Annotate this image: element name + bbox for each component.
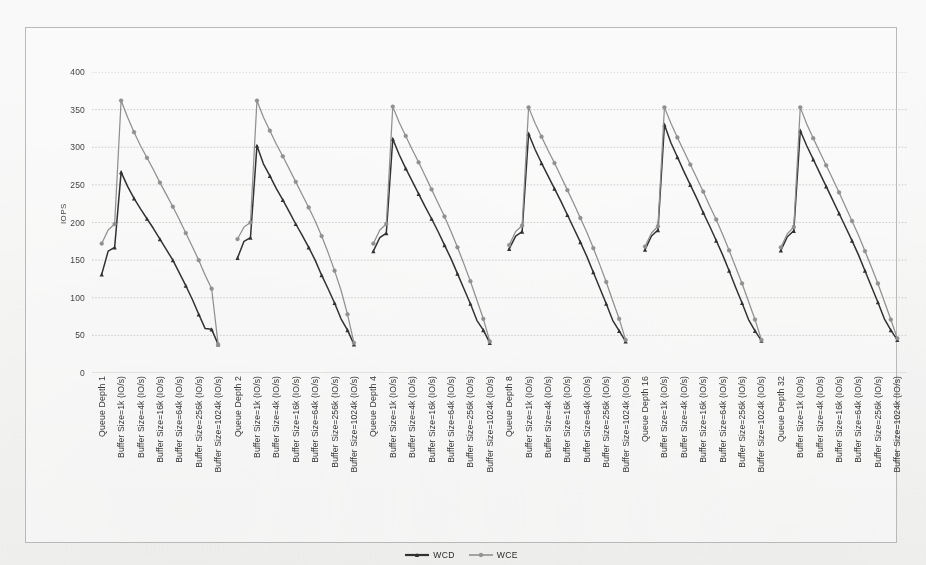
legend-label-wce: WCE — [497, 550, 518, 560]
y-axis-tick-300: 300 — [70, 142, 92, 152]
y-axis-tick-0: 0 — [80, 368, 92, 378]
y-axis-tick-150: 150 — [70, 255, 92, 265]
x-axis-group-label-5: Queue Depth 32 — [776, 376, 786, 442]
x-axis-tick-label-5-5: Buffer Size=1024k (IO/s) — [892, 376, 902, 473]
x-axis-tick-label-0-0: Buffer Size=1k (IO/s) — [116, 376, 126, 458]
legend-label-wcd: WCD — [433, 550, 454, 560]
x-axis-tick-label-3-5: Buffer Size=1024k (IO/s) — [621, 376, 631, 473]
x-axis-group-label-4: Queue Depth 16 — [640, 376, 650, 442]
x-axis-tick-label-2-1: Buffer Size=4k (IO/s) — [407, 376, 417, 458]
legend-swatch-triangle-icon — [404, 550, 430, 560]
x-axis-tick-label-2-3: Buffer Size=64k (IO/s) — [446, 376, 456, 463]
y-axis-tick-250: 250 — [70, 180, 92, 190]
y-axis-title: IOPS — [59, 203, 68, 224]
legend-entry-wce[interactable]: WCE — [468, 550, 518, 560]
x-axis-tick-label-3-1: Buffer Size=4k (IO/s) — [543, 376, 553, 458]
x-axis-tick-label-2-2: Buffer Size=16k (IO/s) — [427, 376, 437, 463]
chart-frame: IOPS 400350300250200150100500 Queue Dept… — [25, 27, 897, 543]
x-axis-tick-label-4-4: Buffer Size=256k (IO/s) — [737, 376, 747, 468]
x-axis-tick-label-5-2: Buffer Size=16k (IO/s) — [834, 376, 844, 463]
chart-svg — [92, 72, 907, 373]
x-axis-tick-label-0-4: Buffer Size=256k (IO/s) — [194, 376, 204, 468]
x-axis-tick-label-3-2: Buffer Size=16k (IO/s) — [562, 376, 572, 463]
legend-entry-wcd[interactable]: WCD — [404, 550, 454, 560]
y-axis-tick-350: 350 — [70, 105, 92, 115]
x-axis-tick-label-3-0: Buffer Size=1k (IO/s) — [524, 376, 534, 458]
x-axis-group-label-2: Queue Depth 4 — [368, 376, 378, 437]
y-axis-tick-50: 50 — [75, 330, 92, 340]
x-axis-tick-label-0-1: Buffer Size=4k (IO/s) — [136, 376, 146, 458]
x-axis-tick-label-1-5: Buffer Size=1024k (IO/s) — [349, 376, 359, 473]
x-axis-group-label-0: Queue Depth 1 — [97, 376, 107, 437]
x-axis-tick-label-4-2: Buffer Size=16k (IO/s) — [698, 376, 708, 463]
y-axis-tick-200: 200 — [70, 218, 92, 228]
x-axis-tick-label-1-4: Buffer Size=256k (IO/s) — [330, 376, 340, 468]
x-axis-tick-label-4-0: Buffer Size=1k (IO/s) — [659, 376, 669, 458]
x-axis-tick-label-0-5: Buffer Size=1024k (IO/s) — [213, 376, 223, 473]
x-axis-tick-label-1-3: Buffer Size=64k (IO/s) — [310, 376, 320, 463]
x-axis-tick-label-3-3: Buffer Size=64k (IO/s) — [582, 376, 592, 463]
x-axis-tick-label-5-0: Buffer Size=1k (IO/s) — [795, 376, 805, 458]
x-axis-tick-label-1-0: Buffer Size=1k (IO/s) — [252, 376, 262, 458]
x-axis-tick-label-2-5: Buffer Size=1024k (IO/s) — [485, 376, 495, 473]
x-axis-tick-label-1-2: Buffer Size=16k (IO/s) — [291, 376, 301, 463]
x-axis-tick-label-0-2: Buffer Size=16k (IO/s) — [155, 376, 165, 463]
x-axis-tick-label-5-4: Buffer Size=256k (IO/s) — [873, 376, 883, 468]
y-axis-tick-400: 400 — [70, 67, 92, 77]
x-axis-tick-label-4-1: Buffer Size=4k (IO/s) — [679, 376, 689, 458]
x-axis-group-label-3: Queue Depth 8 — [504, 376, 514, 437]
x-axis-tick-label-2-0: Buffer Size=1k (IO/s) — [388, 376, 398, 458]
x-axis-tick-label-0-3: Buffer Size=64k (IO/s) — [174, 376, 184, 463]
x-axis-tick-label-4-5: Buffer Size=1024k (IO/s) — [756, 376, 766, 473]
x-axis-group-label-1: Queue Depth 2 — [233, 376, 243, 437]
legend-swatch-circle-icon — [468, 550, 494, 560]
x-axis-tick-label-3-4: Buffer Size=256k (IO/s) — [601, 376, 611, 468]
plot-area: 400350300250200150100500 — [92, 72, 907, 373]
x-axis-tick-labels: Queue Depth 1Buffer Size=1k (IO/s)Buffer… — [92, 376, 907, 546]
x-axis-tick-label-4-3: Buffer Size=64k (IO/s) — [718, 376, 728, 463]
x-axis-tick-label-5-1: Buffer Size=4k (IO/s) — [815, 376, 825, 458]
chart-legend: WCDWCE — [26, 550, 896, 560]
x-axis-tick-label-2-4: Buffer Size=256k (IO/s) — [465, 376, 475, 468]
x-axis-tick-label-5-3: Buffer Size=64k (IO/s) — [853, 376, 863, 463]
x-axis-tick-label-1-1: Buffer Size=4k (IO/s) — [271, 376, 281, 458]
y-axis-tick-100: 100 — [70, 293, 92, 303]
